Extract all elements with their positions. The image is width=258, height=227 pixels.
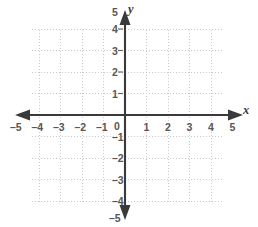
axis-lines: [0, 0, 258, 227]
coordinate-plane: –5 –4 –3 –2 –1 1 2 3 4 5 5 4 3 2 1 –1 –2…: [0, 0, 258, 227]
y-axis-arrow-up: [120, 10, 131, 25]
x-axis-arrow-right: [228, 110, 243, 121]
x-axis-arrow-left: [15, 110, 30, 121]
y-axis-arrow-down: [120, 205, 131, 220]
